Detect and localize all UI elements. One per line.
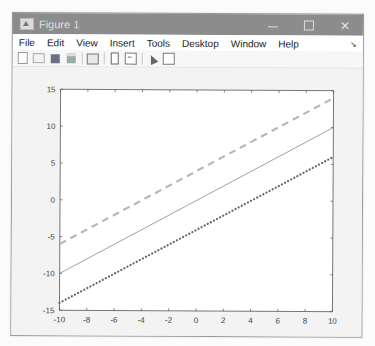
property-inspector-icon bbox=[163, 53, 175, 65]
close-button[interactable]: ✕ bbox=[327, 15, 363, 36]
colorbar-button[interactable] bbox=[109, 53, 121, 65]
menu-view[interactable]: View bbox=[70, 37, 104, 48]
menu-file[interactable]: File bbox=[13, 37, 41, 48]
print-button[interactable] bbox=[65, 52, 77, 64]
menu-bar: File Edit View Insert Tools Desktop Wind… bbox=[13, 34, 363, 52]
menu-desktop[interactable]: Desktop bbox=[176, 37, 225, 48]
menu-edit[interactable]: Edit bbox=[41, 37, 70, 48]
legend-icon bbox=[125, 53, 137, 65]
figure-canvas: -10-8-6-4-20246810-15-10-5051015 bbox=[11, 67, 362, 337]
x-tick-label: 0 bbox=[194, 316, 199, 325]
x-tick-label: -10 bbox=[54, 315, 66, 324]
y-tick-label: -5 bbox=[48, 233, 56, 242]
toolbar-separator bbox=[104, 52, 105, 64]
x-tick-label: 10 bbox=[328, 317, 337, 326]
save-button[interactable] bbox=[49, 52, 61, 64]
dock-figure-icon[interactable]: ↘ bbox=[350, 39, 357, 48]
y-tick-label: 10 bbox=[46, 122, 55, 131]
edit-plot-button[interactable] bbox=[147, 53, 159, 65]
window-title: Figure 1 bbox=[39, 18, 255, 31]
matlab-figure-icon bbox=[20, 18, 34, 30]
y-tick-label: -10 bbox=[43, 269, 55, 278]
y-tick-label: 15 bbox=[47, 85, 56, 94]
menu-window[interactable]: Window bbox=[225, 38, 273, 49]
y-tick-label: -15 bbox=[43, 306, 55, 315]
menu-insert[interactable]: Insert bbox=[104, 37, 141, 48]
line-chart: -10-8-6-4-20246810-15-10-5051015 bbox=[11, 67, 362, 337]
toolbar-separator bbox=[82, 52, 83, 64]
y-tick-label: 0 bbox=[51, 196, 56, 205]
colorbar-icon bbox=[111, 53, 119, 65]
new-figure-icon bbox=[18, 52, 28, 64]
x-tick-label: -8 bbox=[83, 315, 91, 324]
x-tick-label: 6 bbox=[276, 316, 281, 325]
edit-plot-arrow-icon bbox=[147, 53, 158, 65]
x-tick-label: -2 bbox=[165, 316, 173, 325]
minimize-button[interactable] bbox=[255, 14, 291, 35]
figure-window: Figure 1 ✕ File Edit View Insert Tools D… bbox=[10, 12, 364, 338]
link-plot-button[interactable] bbox=[87, 52, 99, 64]
x-tick-label: 2 bbox=[221, 316, 226, 325]
menu-tools[interactable]: Tools bbox=[141, 37, 176, 48]
close-icon: ✕ bbox=[340, 18, 350, 32]
menu-help[interactable]: Help bbox=[272, 38, 305, 49]
property-inspector-button[interactable] bbox=[163, 53, 175, 65]
print-icon bbox=[66, 53, 75, 63]
new-figure-button[interactable] bbox=[17, 52, 29, 64]
x-tick-label: 4 bbox=[248, 316, 253, 325]
title-bar[interactable]: Figure 1 ✕ bbox=[13, 13, 363, 36]
y-tick-label: 5 bbox=[51, 159, 56, 168]
open-file-button[interactable] bbox=[33, 52, 45, 64]
open-file-icon bbox=[33, 53, 45, 63]
legend-button[interactable] bbox=[125, 53, 137, 65]
maximize-button[interactable] bbox=[291, 14, 327, 35]
figure-toolbar bbox=[13, 50, 363, 69]
maximize-icon bbox=[304, 20, 314, 30]
toolbar-separator bbox=[142, 53, 143, 65]
link-plot-icon bbox=[87, 53, 99, 64]
minimize-icon bbox=[268, 26, 278, 27]
x-tick-label: -4 bbox=[138, 316, 146, 325]
x-tick-label: -6 bbox=[110, 316, 118, 325]
x-tick-label: 8 bbox=[303, 317, 308, 326]
save-icon bbox=[50, 54, 59, 63]
